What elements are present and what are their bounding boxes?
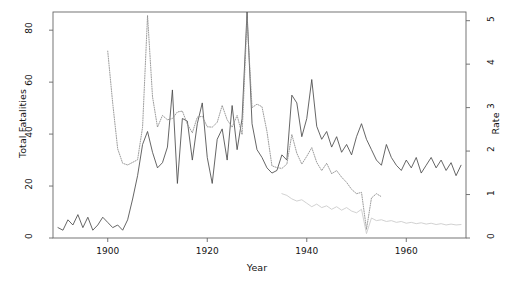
y-axis-left-tick: 40 [24,118,34,146]
x-axis-title: Year [0,262,514,273]
plot-area [0,0,514,284]
x-axis-tick: 1920 [187,246,227,256]
y-axis-left-tick: 0 [24,222,34,250]
y-axis-right-tick: 4 [486,48,496,76]
y-axis-right-tick: 0 [486,222,496,250]
y-axis-right-tick: 3 [486,92,496,120]
chart-figure: Total Fatalities Rate Year 0204060800123… [0,0,514,284]
data-series-group [58,12,461,234]
x-axis-tick: 1940 [287,246,327,256]
series-line-1 [108,15,382,229]
x-axis-tick: 1960 [386,246,426,256]
y-axis-right-tick: 2 [486,135,496,163]
series-line-0 [58,12,461,230]
y-axis-right-tick: 5 [486,5,496,33]
y-axis-left-tick: 20 [24,170,34,198]
y-axis-right-tick: 1 [486,179,496,207]
y-axis-left-tick: 60 [24,66,34,94]
axis-ticks [49,21,470,242]
y-axis-left-tick: 80 [24,14,34,42]
x-axis-tick: 1900 [88,246,128,256]
series-line-2 [282,194,461,234]
